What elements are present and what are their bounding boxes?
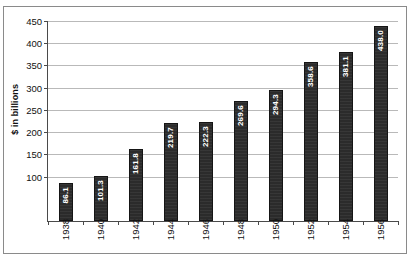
x-tick-label-text: 1938 <box>59 219 70 240</box>
bar-value-label: 86.1 <box>61 187 70 203</box>
x-tick-label-text: 1940 <box>94 219 105 240</box>
bar-slot: 219.7 <box>153 21 188 221</box>
bar-slot: 101.3 <box>83 21 118 221</box>
x-tick-label: 1950 <box>269 219 280 253</box>
x-tick-label-text: 1952 <box>304 219 315 240</box>
bar[interactable]: 219.7 <box>164 123 178 221</box>
bar-slot: 161.8 <box>118 21 153 221</box>
x-tick-mark <box>398 221 399 225</box>
bar-slot: 438.0 <box>363 21 398 221</box>
bar-slot: 294.3 <box>258 21 293 221</box>
bar-slot: 269.6 <box>223 21 258 221</box>
y-tick-label: 200 <box>26 127 42 138</box>
x-tick-label: 1942 <box>129 219 140 253</box>
bar-slot: 358.6 <box>293 21 328 221</box>
x-tick-mark <box>328 221 329 225</box>
x-tick-mark <box>83 221 84 225</box>
x-tick-label: 1954 <box>339 219 350 253</box>
x-tick-label: 1940 <box>94 219 105 253</box>
bar[interactable]: 381.1 <box>339 52 353 221</box>
x-tick-mark <box>48 221 49 225</box>
y-tick-label: 400 <box>26 38 42 49</box>
x-tick-label-text: 1946 <box>199 219 210 240</box>
bar-slot: 86.1 <box>48 21 83 221</box>
bar[interactable]: 222.3 <box>199 122 213 221</box>
bar-value-label: 269.6 <box>236 105 245 126</box>
bar-value-label: 358.6 <box>306 66 315 87</box>
x-tick-mark <box>223 221 224 225</box>
bar[interactable]: 294.3 <box>269 90 283 221</box>
bar[interactable]: 269.6 <box>234 101 248 221</box>
bar-value-label: 161.8 <box>131 153 140 174</box>
y-axis-title-label: $ in billions <box>10 84 20 135</box>
x-tick-label-text: 1944 <box>164 219 175 240</box>
bar[interactable]: 358.6 <box>304 62 318 221</box>
x-tick-label: 1956 <box>374 219 385 253</box>
bar-slot: 222.3 <box>188 21 223 221</box>
x-tick-label: 1952 <box>304 219 315 253</box>
bar[interactable]: 161.8 <box>129 149 143 221</box>
bar-value-label: 101.3 <box>96 180 105 201</box>
x-tick-label: 1944 <box>164 219 175 253</box>
x-tick-mark <box>363 221 364 225</box>
bar-value-label: 438.0 <box>376 30 385 51</box>
bar-slot: 381.1 <box>328 21 363 221</box>
x-tick-label-text: 1954 <box>339 219 350 240</box>
chart-frame: $ in billions 100150200250300350400450 8… <box>3 6 407 254</box>
y-tick-label: 100 <box>26 171 42 182</box>
y-axis-title: $ in billions <box>6 7 24 212</box>
x-tick-mark <box>118 221 119 225</box>
bar[interactable]: 86.1 <box>59 183 73 221</box>
x-tick-label-text: 1948 <box>234 219 245 240</box>
x-tick-mark <box>258 221 259 225</box>
x-tick-label: 1948 <box>234 219 245 253</box>
bar-value-label: 381.1 <box>341 56 350 77</box>
bar-value-label: 294.3 <box>271 94 280 115</box>
bar-value-label: 222.3 <box>201 126 210 147</box>
x-tick-mark <box>188 221 189 225</box>
x-tick-label: 1938 <box>59 219 70 253</box>
bar[interactable]: 101.3 <box>94 176 108 221</box>
plot-area: 100150200250300350400450 86.1101.3161.82… <box>47 21 398 222</box>
y-tick-label: 300 <box>26 82 42 93</box>
y-tick-label: 350 <box>26 60 42 71</box>
bar-value-label: 219.7 <box>166 127 175 148</box>
x-tick-mark <box>153 221 154 225</box>
x-tick-mark <box>293 221 294 225</box>
x-tick-label-text: 1950 <box>269 219 280 240</box>
y-tick-label: 250 <box>26 104 42 115</box>
y-tick-label: 150 <box>26 149 42 160</box>
x-tick-label-text: 1956 <box>374 219 385 240</box>
x-tick-label-text: 1942 <box>129 219 140 240</box>
bar[interactable]: 438.0 <box>374 26 388 221</box>
bars-group: 86.1101.3161.8219.7222.3269.6294.3358.63… <box>48 21 398 221</box>
y-tick-label: 450 <box>26 16 42 27</box>
x-tick-label: 1946 <box>199 219 210 253</box>
